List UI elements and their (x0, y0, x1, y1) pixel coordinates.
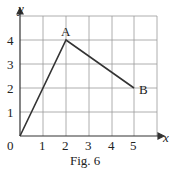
y-tick-4: 4 (7, 34, 14, 47)
y-axis-label: y (18, 2, 24, 15)
point-b-label: B (139, 83, 148, 96)
x-tick-3: 3 (85, 139, 92, 152)
figure-caption: Fig. 6 (70, 154, 100, 167)
y-tick-2: 2 (7, 82, 14, 95)
origin-label: 0 (7, 139, 14, 152)
x-tick-4: 4 (108, 139, 115, 152)
y-tick-1: 1 (7, 106, 14, 119)
y-tick-3: 3 (7, 58, 14, 71)
point-a-label: A (61, 25, 70, 38)
grid (20, 16, 157, 136)
x-tick-5: 5 (130, 139, 137, 152)
x-tick-2: 2 (62, 139, 69, 152)
x-tick-1: 1 (39, 139, 46, 152)
axes (17, 8, 164, 139)
x-axis-label: x (163, 131, 169, 144)
